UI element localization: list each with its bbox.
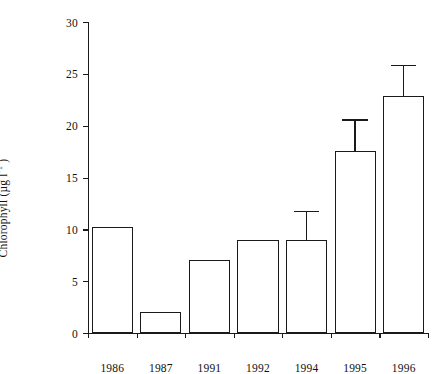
y-axis-title-exponent: -1 [0, 166, 4, 173]
x-axis-label-1992: 1992 [234, 362, 283, 374]
error-bar-cap-1996 [391, 65, 416, 67]
y-axis-tick-label: 20 [66, 120, 78, 132]
y-axis-tick-label: 5 [72, 276, 78, 288]
x-axis-tick [185, 333, 186, 338]
x-axis-tick [234, 333, 235, 338]
bar-1996 [383, 96, 424, 333]
y-axis-title-main: Chlorophyll (µg l [0, 173, 9, 257]
x-axis-label-1991: 1991 [185, 362, 234, 374]
y-axis-title: Chlorophyll (µg l-1 ) [0, 118, 9, 298]
bar-1994 [286, 240, 327, 333]
chart-figure: Chlorophyll (µg l-1 ) 051015202530198619… [0, 0, 448, 374]
y-axis-tick: 10 [83, 229, 88, 230]
y-axis-tick: 30 [83, 22, 88, 23]
y-axis-tick: 20 [83, 126, 88, 127]
bar-1992 [237, 240, 278, 333]
error-bar-cap-1994 [294, 211, 319, 213]
y-axis-title-suffix: ) [0, 159, 9, 166]
x-axis-tick-end [428, 333, 429, 338]
x-axis-label-1996: 1996 [379, 362, 428, 374]
x-axis-tick [331, 333, 332, 338]
x-axis-label-1994: 1994 [282, 362, 331, 374]
x-axis-label-1995: 1995 [331, 362, 380, 374]
x-axis-label-1987: 1987 [137, 362, 186, 374]
error-bar-stem-1996 [403, 65, 404, 96]
y-axis-tick-label: 0 [72, 328, 78, 340]
y-axis-tick: 15 [83, 178, 88, 179]
error-bar-stem-1995 [354, 119, 355, 150]
y-axis-tick-label: 25 [66, 68, 78, 80]
bar-1987 [140, 312, 181, 333]
y-axis-tick-label: 30 [66, 17, 78, 29]
y-axis-tick-label: 15 [66, 172, 78, 184]
bar-1986 [92, 227, 133, 333]
bar-1991 [189, 260, 230, 333]
error-bar-stem-1994 [306, 211, 307, 240]
bar-1995 [335, 151, 376, 333]
x-axis-label-1986: 1986 [88, 362, 137, 374]
y-axis-tick: 25 [83, 74, 88, 75]
x-axis-tick [379, 333, 380, 338]
x-axis-tick [282, 333, 283, 338]
x-axis-tick [137, 333, 138, 338]
plot-area: 0510152025301986198719911992199419951996 [88, 22, 428, 333]
x-axis-tick [88, 333, 89, 338]
y-axis-tick: 5 [83, 281, 88, 282]
y-axis-tick-label: 10 [66, 224, 78, 236]
error-bar-cap-1995 [342, 119, 367, 121]
